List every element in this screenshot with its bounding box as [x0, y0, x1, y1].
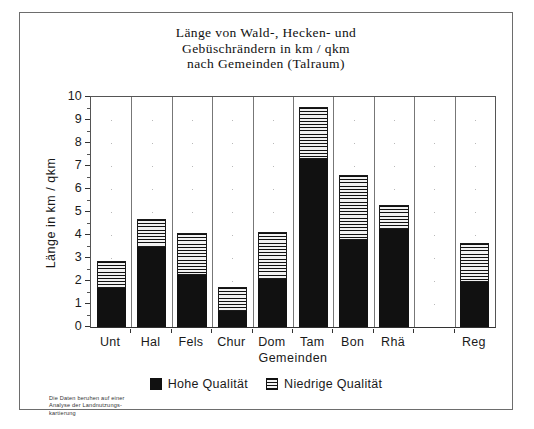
y-tick-label-8: 8 [75, 135, 82, 149]
bar-segment-hohe-qualitaet [299, 159, 328, 327]
y-tick-label-1: 1 [75, 296, 82, 310]
bar-segment-niedrige-qualitaet [299, 107, 328, 159]
bar-segment-hohe-qualitaet [97, 288, 126, 327]
grid-dot [152, 143, 153, 144]
grid-dot [111, 143, 112, 144]
grid-dot [152, 212, 153, 213]
grid-dot [273, 120, 274, 121]
bar-Unt [97, 261, 126, 327]
grid-dot [394, 166, 395, 167]
x-tick-mark [413, 329, 414, 333]
grid-dot [434, 258, 435, 259]
grid-dot [475, 120, 476, 121]
grid-dot [434, 235, 435, 236]
grid-dot [152, 120, 153, 121]
grid-separator [374, 97, 375, 327]
x-tick-mark [454, 329, 455, 333]
legend-label-high: Hohe Qualität [168, 377, 248, 391]
bar-segment-niedrige-qualitaet [177, 233, 206, 275]
grid-dot [434, 166, 435, 167]
x-tick-label-Reg: Reg [462, 335, 486, 349]
grid-separator [414, 97, 415, 327]
grid-dot [232, 235, 233, 236]
bar-Rhä [379, 205, 408, 327]
x-tick-mark [292, 329, 293, 333]
y-tick-label-7: 7 [75, 158, 82, 172]
bar-Chur [218, 287, 247, 327]
x-tick-label-Unt: Unt [100, 335, 120, 349]
grid-dot [152, 166, 153, 167]
grid-dot [152, 189, 153, 190]
grid-dot [192, 143, 193, 144]
grid-dot [232, 120, 233, 121]
bar-Reg [460, 243, 489, 327]
grid-dot [192, 189, 193, 190]
x-tick-label-Rhä: Rhä [381, 335, 405, 349]
grid-dot [475, 212, 476, 213]
grid-dot [273, 212, 274, 213]
plot-area [90, 96, 496, 328]
grid-dot [354, 120, 355, 121]
grid-dot [111, 189, 112, 190]
bar-segment-hohe-qualitaet [379, 229, 408, 327]
y-tick-label-6: 6 [75, 181, 82, 195]
grid-dot [354, 166, 355, 167]
grid-separator [455, 97, 456, 327]
bar-Tam [299, 107, 328, 327]
bar-segment-hohe-qualitaet [258, 279, 287, 327]
grid-dot [394, 189, 395, 190]
chart-title-line-1: Länge von Wald-, Hecken- und [20, 25, 512, 41]
grid-dot [394, 120, 395, 121]
grid-dot [192, 166, 193, 167]
bar-segment-hohe-qualitaet [460, 282, 489, 327]
x-tick-label-Tam: Tam [300, 335, 325, 349]
bar-Hal [137, 219, 166, 327]
grid-dot [273, 143, 274, 144]
grid-dot [475, 235, 476, 236]
bar-Dom [258, 232, 287, 327]
x-tick-mark [332, 329, 333, 333]
x-axis-label: Gemeinden [90, 351, 496, 365]
footnote-line-1: Die Daten beruhen auf einer [49, 395, 199, 402]
grid-dot [354, 143, 355, 144]
y-axis-label: Länge in km / qkm [44, 118, 58, 308]
grid-dot [232, 212, 233, 213]
grid-dot [232, 166, 233, 167]
y-tick-label-0: 0 [75, 319, 82, 333]
bar-segment-niedrige-qualitaet [218, 287, 247, 311]
y-tick-label-9: 9 [75, 112, 82, 126]
grid-dot [273, 189, 274, 190]
legend-item-hohe-qualitaet: Hohe Qualität [150, 377, 248, 391]
grid-dot [111, 166, 112, 167]
grid-dot [192, 120, 193, 121]
chart-title-line-2: Gebüschrändern in km / qkm [20, 41, 512, 57]
grid-dot [111, 235, 112, 236]
grid-dot [232, 258, 233, 259]
grid-dot [273, 166, 274, 167]
x-tick-mark [211, 329, 212, 333]
x-tick-label-Chur: Chur [217, 335, 245, 349]
bar-segment-niedrige-qualitaet [460, 243, 489, 282]
legend-label-low: Niedrige Qualität [284, 377, 382, 391]
bar-segment-niedrige-qualitaet [97, 261, 126, 288]
chart-frame: Länge von Wald-, Hecken- und Gebüschränd… [19, 12, 513, 410]
footnote-line-3: kartierung [49, 410, 199, 417]
y-tick-label-5: 5 [75, 204, 82, 218]
bar-segment-niedrige-qualitaet [379, 205, 408, 229]
x-tick-mark [373, 329, 374, 333]
bar-segment-niedrige-qualitaet [137, 219, 166, 246]
chart-legend: Hohe Qualität Niedrige Qualität [20, 377, 512, 391]
grid-dot [475, 166, 476, 167]
chart-title: Länge von Wald-, Hecken- und Gebüschränd… [20, 25, 512, 72]
grid-dot [434, 120, 435, 121]
bar-segment-hohe-qualitaet [137, 247, 166, 328]
y-tick-label-3: 3 [75, 250, 82, 264]
bar-segment-hohe-qualitaet [177, 275, 206, 327]
bar-Fels [177, 233, 206, 327]
grid-dot [434, 304, 435, 305]
grid-dot [232, 189, 233, 190]
grid-dot [232, 281, 233, 282]
y-tick-label-2: 2 [75, 273, 82, 287]
grid-dot [434, 189, 435, 190]
grid-dot [232, 143, 233, 144]
